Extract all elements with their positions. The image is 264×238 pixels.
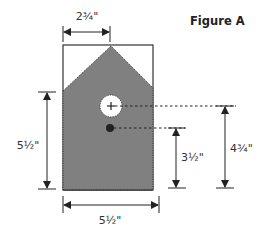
top-width-label: 2¾" — [76, 10, 99, 23]
hole-height-label: 4¾" — [230, 142, 253, 155]
figure-title: Figure A — [190, 14, 245, 28]
dot-height-label: 3½" — [181, 151, 204, 164]
perch-dot — [106, 124, 114, 132]
bottom-width-label: 5½" — [99, 214, 122, 227]
left-height-label: 5½" — [17, 139, 40, 152]
figure-a-diagram: Figure A 2¾" 5½" 5½" 3½" 4¾" — [0, 0, 264, 238]
